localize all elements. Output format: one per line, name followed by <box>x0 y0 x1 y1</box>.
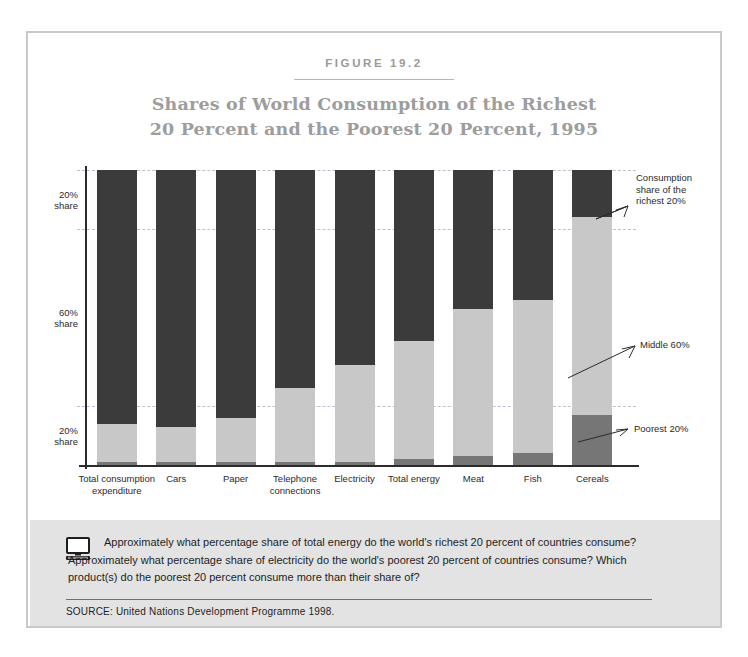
question-text: Approximately what percentage share of t… <box>68 534 668 587</box>
question-panel: Approximately what percentage share of t… <box>30 520 720 626</box>
segment-richest-20 <box>335 170 375 365</box>
y-axis-label-value: 60% <box>32 307 78 318</box>
y-axis-label-value: 20% <box>32 189 78 200</box>
segment-poorest-20 <box>97 462 137 465</box>
segment-richest-20 <box>513 170 553 300</box>
bar <box>97 170 137 465</box>
figure-page: FIGURE 19.2 Shares of World Consumption … <box>0 0 748 657</box>
bar <box>513 170 553 465</box>
y-axis-label: 60%share <box>32 307 78 329</box>
segment-richest-20 <box>275 170 315 388</box>
bar <box>156 170 196 465</box>
y-axis-label-unit: share <box>32 436 78 447</box>
segment-poorest-20 <box>275 462 315 465</box>
y-axis-label: 20%share <box>32 189 78 211</box>
segment-middle-60 <box>275 388 315 462</box>
figure-frame: FIGURE 19.2 Shares of World Consumption … <box>26 31 722 628</box>
x-axis-label: Cereals <box>546 473 638 485</box>
source-note: SOURCE: United Nations Development Progr… <box>66 606 334 617</box>
y-axis-line <box>85 166 87 469</box>
segment-poorest-20 <box>335 462 375 465</box>
callout-richest: Consumption share of the richest 20% <box>636 172 716 207</box>
segment-poorest-20 <box>394 459 434 465</box>
segment-richest-20 <box>216 170 256 418</box>
segment-richest-20 <box>156 170 196 427</box>
segment-middle-60 <box>453 309 493 457</box>
segment-richest-20 <box>453 170 493 309</box>
callout-poorest: Poorest 20% <box>634 423 724 435</box>
bar <box>335 170 375 465</box>
bar <box>572 170 612 465</box>
segment-middle-60 <box>216 418 256 462</box>
bar <box>275 170 315 465</box>
y-axis-label-value: 20% <box>32 425 78 436</box>
segment-middle-60 <box>394 341 434 459</box>
y-axis-label: 20%share <box>32 425 78 447</box>
bar <box>216 170 256 465</box>
segment-middle-60 <box>97 424 137 462</box>
segment-poorest-20 <box>572 415 612 465</box>
segment-middle-60 <box>572 217 612 415</box>
bar <box>453 170 493 465</box>
segment-richest-20 <box>97 170 137 424</box>
segment-richest-20 <box>572 170 612 217</box>
segment-middle-60 <box>156 427 196 462</box>
bar <box>394 170 434 465</box>
segment-poorest-20 <box>513 453 553 465</box>
segment-poorest-20 <box>156 462 196 465</box>
y-axis-label-unit: share <box>32 318 78 329</box>
segment-poorest-20 <box>453 456 493 465</box>
segment-middle-60 <box>335 365 375 462</box>
segment-middle-60 <box>513 300 553 453</box>
chart-area: 20%share60%share20%share Total consumpti… <box>28 33 724 513</box>
segment-richest-20 <box>394 170 434 341</box>
callout-middle: Middle 60% <box>640 339 720 351</box>
y-axis-label-unit: share <box>32 200 78 211</box>
segment-poorest-20 <box>216 462 256 465</box>
question-divider <box>66 599 652 600</box>
x-axis-line <box>79 465 639 467</box>
